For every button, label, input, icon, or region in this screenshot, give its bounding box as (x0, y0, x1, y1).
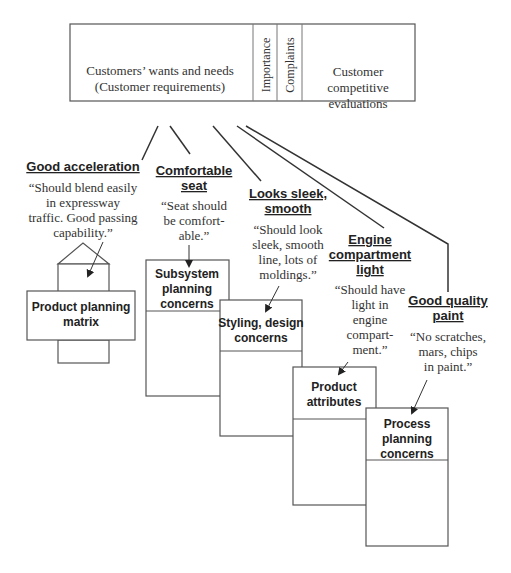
stage-label-line: Product planning (32, 300, 131, 314)
requirement-quote-line: “Seat should (161, 198, 228, 213)
requirement-looks-sleek: Looks sleek, smooth “Should look sleek, … (249, 186, 327, 282)
stage-label-line: planning (382, 432, 432, 446)
qfd-diagram: Customers’ wants and needs (Customer req… (0, 0, 511, 573)
requirement-quote-line: engine (353, 312, 388, 327)
requirement-quote-line: “Should look (254, 222, 323, 237)
requirement-title: Looks sleek, (249, 186, 327, 201)
requirement-title: paint (432, 308, 464, 323)
requirement-quote-line: light in (351, 297, 389, 312)
requirement-quote-line: “Should blend easily (29, 180, 138, 195)
complaints-label: Complaints (283, 37, 297, 93)
customer-requirements-table: Customers’ wants and needs (Customer req… (70, 24, 415, 111)
requirement-quote-line: “Should have (335, 282, 406, 297)
stage-label-line: attributes (307, 395, 362, 409)
stage-label-line: matrix (63, 315, 99, 329)
stage-label-line: Styling, design (218, 316, 303, 330)
connector-line-seat (170, 126, 190, 154)
evaluations-line1: Customer (333, 64, 384, 79)
requirement-quote-line: ment.” (352, 342, 387, 357)
requirement-comfortable-seat: Comfortable seat “Seat should be comfort… (156, 163, 233, 243)
house-lower-box (58, 340, 109, 363)
importance-label: Importance (259, 38, 273, 93)
requirement-quote-line: “No scratches, (410, 329, 486, 344)
requirement-quote-line: be comfort- (163, 213, 224, 228)
requirement-quote-line: able.” (179, 228, 210, 243)
stage-label-line: Subsystem (155, 267, 219, 281)
requirement-title: Good acceleration (26, 159, 139, 174)
stage-product-attributes: Product attributes (293, 362, 376, 505)
requirement-quote-line: traffic. Good passing (28, 210, 138, 225)
requirement-quote-line: in expressway (46, 195, 121, 210)
stage-label-line: Process (384, 417, 431, 431)
requirement-quote-line: compart- (347, 327, 394, 342)
stage-process-planning: Process planning concerns (366, 380, 448, 546)
requirements-label-line1: Customers’ wants and needs (86, 63, 233, 78)
requirement-engine-light: Engine compartment light “Should have li… (329, 232, 412, 357)
evaluations-line3: evaluations (328, 96, 387, 111)
stage-subsystem-planning: Subsystem planning concerns (146, 245, 229, 396)
requirement-title: Engine (348, 232, 391, 247)
requirement-quote-line: line, lots of (259, 252, 319, 267)
requirement-quote-line: moldings.” (259, 267, 317, 282)
stage-styling-design: Styling, design concerns (218, 286, 303, 436)
requirement-title: light (356, 262, 384, 277)
requirement-quote-line: sleek, smooth (252, 237, 324, 252)
requirement-title: smooth (265, 201, 312, 216)
requirement-good-quality-paint: Good quality paint “No scratches, mars, … (408, 293, 488, 374)
house-upper-box (58, 264, 109, 292)
stage-product-planning-matrix: Product planning matrix (27, 242, 135, 363)
requirement-title: seat (181, 178, 208, 193)
connector-line-acceleration (142, 126, 158, 160)
stage-label-line: concerns (380, 447, 434, 461)
requirement-title: Good quality (408, 293, 488, 308)
requirement-title: compartment (329, 247, 412, 262)
requirement-quote-line: capability.” (53, 225, 113, 240)
stage-label-line: concerns (234, 331, 288, 345)
stage-label-line: concerns (160, 297, 214, 311)
evaluations-line2: competitive (327, 80, 389, 95)
requirement-quote-line: in paint.” (424, 359, 473, 374)
requirement-title: Comfortable (156, 163, 233, 178)
requirement-quote-line: mars, chips (418, 344, 477, 359)
stage-label-line: planning (162, 282, 212, 296)
requirement-good-acceleration: Good acceleration “Should blend easily i… (26, 159, 139, 240)
requirements-label-line2: (Customer requirements) (95, 79, 225, 94)
stage-label-line: Product (311, 380, 356, 394)
